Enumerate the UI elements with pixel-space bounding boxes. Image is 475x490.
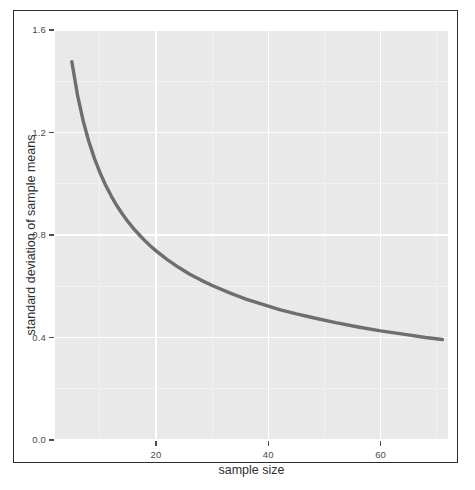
y-tick-mark <box>49 234 54 235</box>
plot-panel <box>55 30 448 440</box>
y-tick-mark <box>49 337 54 338</box>
y-tick-mark <box>49 29 54 30</box>
figure-root: 0.00.40.81.21.6 204060 sample size stand… <box>0 0 475 490</box>
x-tick-mark <box>268 441 269 446</box>
y-tick-mark <box>49 132 54 133</box>
series-line-standard-error <box>55 30 448 440</box>
x-axis-title: sample size <box>55 463 448 477</box>
x-tick-label: 60 <box>361 449 401 460</box>
y-axis-title: standard deviation of sample means <box>24 30 40 440</box>
x-tick-label: 20 <box>136 449 176 460</box>
y-tick-mark <box>49 439 54 440</box>
x-tick-mark <box>380 441 381 446</box>
x-tick-label: 40 <box>248 449 288 460</box>
series-path <box>72 62 443 340</box>
x-tick-mark <box>155 441 156 446</box>
